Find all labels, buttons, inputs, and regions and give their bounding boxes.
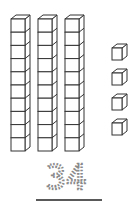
tens-rod (65, 15, 84, 151)
ones-cube (112, 69, 127, 85)
ones-cube (112, 119, 127, 135)
number-text: 34 (46, 157, 87, 197)
ones-cube (112, 44, 127, 60)
ones-cubes (112, 44, 127, 135)
tens-rods (11, 15, 84, 151)
base-ten-blocks-diagram: 34 (0, 0, 140, 205)
tens-rod (11, 15, 30, 151)
ones-cube (112, 94, 127, 110)
number-34: 34 (46, 157, 87, 197)
tens-rod (38, 15, 57, 151)
